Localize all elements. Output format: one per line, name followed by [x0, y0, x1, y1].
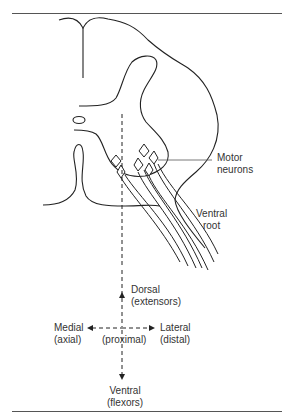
medial-label: Medial (axial): [54, 322, 83, 346]
dorsal-label: Dorsal (extensors): [131, 284, 181, 308]
arrow-down-icon: [119, 374, 125, 380]
ventral-label: Ventral (flexors): [107, 385, 143, 409]
proximal-label: (proximal): [102, 334, 146, 346]
ventral-root-label: Ventral root: [196, 208, 227, 232]
motor-neuron-cluster: [111, 144, 158, 178]
motor-neuron-icon: [149, 151, 158, 164]
lateral-label: Lateral (distal): [160, 322, 191, 346]
motor-neuron-icon: [117, 165, 125, 178]
motor-neuron-icon: [134, 158, 143, 171]
arrow-up-icon: [119, 292, 125, 298]
spinal-cord-diagram: [0, 0, 288, 420]
motor-neurons-label: Motor neurons: [217, 152, 253, 176]
arrow-right-icon: [149, 325, 155, 331]
central-canal: [73, 117, 85, 124]
motor-neuron-icon: [139, 144, 149, 157]
arrow-left-icon: [87, 325, 93, 331]
